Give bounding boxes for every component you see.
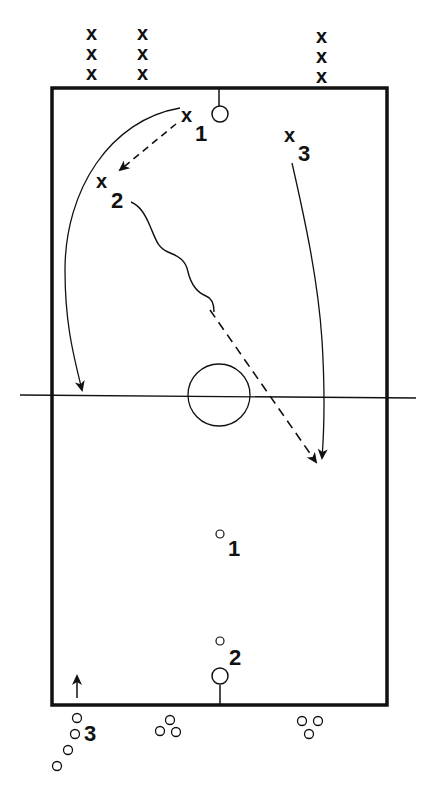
- waiting-line-3: x x x: [316, 25, 327, 87]
- waiting-group-bottom-middle: [156, 716, 181, 737]
- player-x1: x 1: [181, 104, 207, 146]
- opponent-o1: 1: [216, 530, 240, 561]
- drill-diagram: x x x x x x x x x x 1 x 2 x 3 1: [0, 0, 430, 795]
- svg-text:3: 3: [84, 721, 96, 746]
- top-goal-ring: [212, 106, 228, 122]
- svg-text:2: 2: [229, 645, 241, 670]
- pass-arrow-x2-diagonal: [210, 310, 316, 462]
- svg-text:x: x: [137, 22, 148, 44]
- player-x3: x 3: [284, 124, 310, 166]
- player-x2: x 2: [96, 170, 123, 213]
- svg-text:x: x: [316, 65, 327, 87]
- svg-text:x: x: [181, 104, 192, 126]
- opponent-group-o3: 3: [53, 714, 97, 771]
- svg-text:3: 3: [298, 141, 310, 166]
- svg-text:1: 1: [195, 121, 207, 146]
- opponent-o2: 2: [216, 637, 241, 670]
- center-circle: [188, 364, 250, 426]
- svg-text:x: x: [86, 42, 97, 64]
- bottom-goal-ring: [212, 668, 228, 684]
- svg-text:x: x: [86, 22, 97, 44]
- svg-text:x: x: [316, 25, 327, 47]
- svg-text:2: 2: [111, 188, 123, 213]
- svg-text:x: x: [86, 62, 97, 84]
- waiting-line-1: x x x: [86, 22, 97, 84]
- svg-text:1: 1: [228, 536, 240, 561]
- run-arrow-x3: [292, 163, 324, 458]
- dribble-path-x2: [131, 202, 214, 312]
- svg-text:x: x: [284, 124, 295, 146]
- pass-arrow-x1-to-x2: [120, 124, 176, 170]
- svg-text:x: x: [137, 42, 148, 64]
- waiting-line-2: x x x: [137, 22, 148, 84]
- waiting-group-bottom-right: [298, 717, 323, 739]
- half-court-line: [20, 395, 416, 398]
- svg-text:x: x: [137, 62, 148, 84]
- svg-text:x: x: [96, 170, 107, 192]
- svg-text:x: x: [316, 45, 327, 67]
